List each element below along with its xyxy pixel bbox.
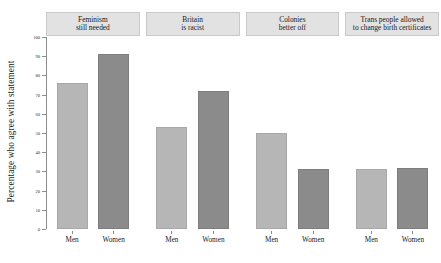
x-tick-group-men: Men	[256, 231, 287, 244]
bar-chart-figure: Percentage who agree with statement Femi…	[0, 0, 441, 263]
bar-slot-women	[397, 37, 428, 229]
y-tick-mark	[42, 229, 46, 230]
y-tick-label: 0	[0, 227, 40, 232]
x-tick-mark	[371, 231, 372, 234]
panel-header-feminism: Feminism still needed	[46, 12, 140, 36]
y-tick-label: 50	[0, 131, 40, 136]
x-labels-colonies: Men Women	[246, 231, 340, 251]
y-tick-label: 40	[0, 150, 40, 155]
x-tick-mark	[271, 231, 272, 234]
x-tick-label-men: Men	[265, 236, 278, 244]
x-tick-label-women: Women	[402, 236, 424, 244]
bar-slot-women	[298, 37, 329, 229]
y-tick-label: 60	[0, 111, 40, 116]
bar-britain-men[interactable]	[156, 127, 187, 229]
bar-slot-women	[98, 37, 129, 229]
panel-feminism	[46, 37, 140, 229]
x-tick-group-men: Men	[57, 231, 88, 244]
x-tick-mark	[313, 231, 314, 234]
x-labels-britain: Men Women	[146, 231, 240, 251]
bar-colonies-men[interactable]	[256, 133, 287, 229]
x-tick-label-women: Women	[103, 236, 125, 244]
bar-slot-men	[156, 37, 187, 229]
panel-header-line2: is racist	[181, 24, 204, 32]
bar-slot-women	[198, 37, 229, 229]
x-tick-group-men: Men	[356, 231, 387, 244]
x-tick-mark	[213, 231, 214, 234]
y-tick-label: 100	[0, 35, 40, 40]
panel-britain	[146, 37, 240, 229]
x-tick-group-women: Women	[298, 231, 329, 244]
x-labels-feminism: Men Women	[46, 231, 140, 251]
x-tick-label-women: Women	[302, 236, 324, 244]
y-tick-label: 20	[0, 188, 40, 193]
y-tick-label: 90	[0, 54, 40, 59]
x-tick-group-men: Men	[156, 231, 187, 244]
y-tick-label: 30	[0, 169, 40, 174]
x-tick-label-men: Men	[365, 236, 378, 244]
bar-slot-men	[57, 37, 88, 229]
y-tick-label: 10	[0, 207, 40, 212]
x-axis-label-strip: Men Women Men Women Men W	[46, 231, 439, 251]
x-tick-mark	[171, 231, 172, 234]
panels-container	[46, 37, 439, 229]
x-tick-mark	[412, 231, 413, 234]
x-tick-label-men: Men	[165, 236, 178, 244]
x-tick-group-women: Women	[198, 231, 229, 244]
bar-slot-men	[356, 37, 387, 229]
panel-header-trans: Trans people allowed to change birth cer…	[345, 12, 439, 36]
panel-header-line2: to change birth certificates	[353, 24, 432, 32]
panel-trans	[345, 37, 439, 229]
x-tick-mark	[113, 231, 114, 234]
x-tick-group-women: Women	[98, 231, 129, 244]
bar-feminism-women[interactable]	[98, 54, 129, 229]
x-tick-group-women: Women	[397, 231, 428, 244]
bar-slot-men	[256, 37, 287, 229]
bar-feminism-men[interactable]	[57, 83, 88, 229]
x-tick-mark	[72, 231, 73, 234]
panel-header-line2: still needed	[76, 24, 110, 32]
bar-trans-women[interactable]	[397, 168, 428, 229]
x-labels-trans: Men Women	[345, 231, 439, 251]
y-tick-label: 70	[0, 92, 40, 97]
panel-header-colonies: Colonies better off	[246, 12, 340, 36]
bar-colonies-women[interactable]	[298, 169, 329, 229]
y-tick-label: 80	[0, 73, 40, 78]
bar-trans-men[interactable]	[356, 169, 387, 229]
panel-header-line2: better off	[279, 24, 306, 32]
x-tick-label-men: Men	[66, 236, 79, 244]
bar-britain-women[interactable]	[198, 91, 229, 229]
panel-header-britain: Britain is racist	[146, 12, 240, 36]
x-tick-label-women: Women	[202, 236, 224, 244]
panel-colonies	[246, 37, 340, 229]
panel-header-strip: Feminism still needed Britain is racist …	[46, 12, 439, 36]
